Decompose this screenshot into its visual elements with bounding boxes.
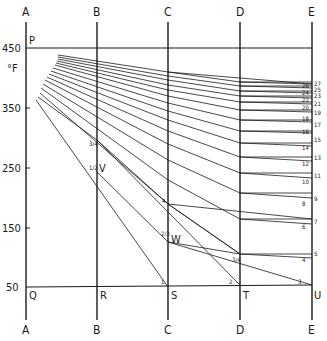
svg-text:2/3: 2/3 bbox=[161, 230, 170, 237]
svg-text:21: 21 bbox=[314, 100, 321, 107]
y-tick-labels: 450 °F 350 250 150 50 bbox=[2, 42, 21, 294]
label-e-bottom: E bbox=[308, 323, 315, 337]
svg-text:4: 4 bbox=[302, 256, 306, 263]
tick-350: 350 bbox=[2, 102, 21, 115]
point-r: R bbox=[100, 289, 107, 302]
vertical-axes bbox=[26, 22, 312, 320]
label-c-top: C bbox=[164, 5, 172, 19]
svg-text:3: 3 bbox=[298, 278, 301, 285]
point-p: P bbox=[29, 34, 35, 47]
label-d-top: D bbox=[236, 5, 244, 19]
point-q: Q bbox=[29, 289, 37, 302]
line-q-50 bbox=[26, 285, 312, 287]
svg-text:14: 14 bbox=[302, 144, 309, 151]
temperature-stage-diagram: A B C D E A B C D E 450 °F 350 250 150 5… bbox=[0, 0, 327, 341]
point-t: T bbox=[242, 289, 250, 302]
label-b-top: B bbox=[93, 5, 100, 19]
e-axis-numbers: 27 25 23 21 19 17 15 13 11 9 7 5 bbox=[314, 80, 321, 257]
tick-250: 250 bbox=[2, 162, 21, 175]
svg-text:20: 20 bbox=[302, 104, 309, 111]
svg-text:1/2: 1/2 bbox=[89, 164, 98, 171]
svg-text:2: 2 bbox=[229, 278, 232, 285]
point-v: V bbox=[99, 162, 106, 175]
svg-text:3/4: 3/4 bbox=[232, 256, 241, 263]
svg-text:9: 9 bbox=[314, 195, 318, 202]
svg-text:7: 7 bbox=[314, 218, 317, 225]
svg-text:10: 10 bbox=[302, 178, 309, 185]
tick-50: 50 bbox=[6, 281, 19, 294]
label-b-bottom: B bbox=[93, 323, 100, 337]
label-d-bottom: D bbox=[236, 323, 244, 337]
svg-text:19: 19 bbox=[314, 109, 321, 116]
tick-150: 150 bbox=[2, 222, 21, 235]
svg-text:26: 26 bbox=[302, 82, 309, 89]
unit-label: °F bbox=[7, 62, 18, 75]
svg-text:12: 12 bbox=[302, 160, 309, 167]
label-e-top: E bbox=[308, 5, 315, 19]
fan-lines bbox=[36, 55, 312, 287]
svg-text:4: 4 bbox=[162, 197, 166, 204]
svg-text:16: 16 bbox=[302, 128, 309, 135]
svg-text:24: 24 bbox=[302, 89, 309, 96]
point-s: S bbox=[171, 289, 177, 302]
svg-text:13: 13 bbox=[314, 154, 321, 161]
svg-text:22: 22 bbox=[302, 96, 309, 103]
label-c-bottom: C bbox=[164, 323, 172, 337]
e-axis-inner-numbers: 26 24 22 20 18 16 14 12 10 8 6 4 bbox=[302, 82, 309, 263]
label-a-bottom: A bbox=[22, 323, 30, 337]
svg-text:15: 15 bbox=[314, 136, 321, 143]
svg-text:17: 17 bbox=[314, 121, 321, 128]
svg-text:5: 5 bbox=[314, 250, 317, 257]
tick-450: 450 bbox=[2, 42, 21, 55]
horizontal-lines bbox=[26, 48, 312, 287]
svg-text:8: 8 bbox=[302, 200, 306, 207]
svg-text:11: 11 bbox=[314, 172, 321, 179]
svg-text:6: 6 bbox=[302, 223, 306, 230]
svg-text:3/4: 3/4 bbox=[89, 140, 98, 147]
svg-text:23: 23 bbox=[314, 92, 321, 99]
label-a-top: A bbox=[22, 5, 30, 19]
svg-text:1: 1 bbox=[161, 278, 164, 285]
point-u: U bbox=[314, 289, 321, 302]
point-w: W bbox=[171, 233, 181, 246]
svg-text:18: 18 bbox=[302, 115, 309, 122]
